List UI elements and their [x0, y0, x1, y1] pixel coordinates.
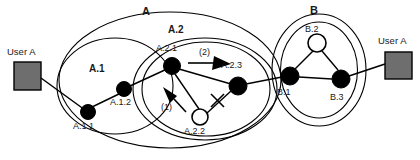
node-b-3[interactable]	[332, 70, 350, 88]
edge-a21-a23	[179, 69, 231, 84]
edge-b1-b2	[295, 51, 313, 69]
annotation-label-step-1: (1)	[161, 103, 172, 112]
node-label-a-1-1: A.1.1	[73, 122, 94, 131]
annotation-label-step-2: (2)	[199, 48, 210, 57]
edge-usera-a11	[41, 78, 85, 110]
node-label-a-1-2: A.1.2	[110, 98, 131, 107]
user-a-left-label: User A	[7, 47, 36, 57]
edge-b1-b3	[299, 77, 332, 79]
user-a-right-box[interactable]	[385, 52, 412, 79]
node-a-2-2[interactable]	[192, 109, 208, 125]
edge-b2-b3	[322, 51, 338, 70]
user-a-right-label: User A	[378, 36, 407, 46]
node-a-2-1[interactable]	[164, 58, 181, 75]
group-label-a1: A.1	[89, 64, 105, 74]
edge-a12-a21	[130, 69, 167, 86]
group-label-a: A	[142, 6, 150, 17]
node-a-2-3[interactable]	[229, 77, 247, 95]
node-label-a-2-2: A.2.2	[184, 127, 205, 136]
node-label-a-2-3: A.2.3	[221, 61, 242, 70]
group-label-b: B	[310, 5, 318, 16]
node-label-a-2-1: A.2.1	[156, 44, 177, 53]
node-a-1-1[interactable]	[81, 105, 96, 120]
node-label-b-2: B.2	[305, 25, 319, 34]
user-a-left-box[interactable]	[14, 62, 41, 90]
diagram-svg	[0, 0, 420, 160]
group-label-a2: A.2	[168, 25, 184, 35]
diagram-canvas: A A.1 A.2 B A.1.1 A.1.2 A.2.1 A.2.2 A.2.…	[0, 0, 420, 160]
node-label-b-3: B.3	[330, 93, 344, 102]
edge-b3-usera	[349, 64, 385, 76]
broken-link-x-icon	[211, 94, 224, 107]
node-a-1-2[interactable]	[117, 82, 132, 97]
node-b-1[interactable]	[281, 67, 299, 85]
node-b-2[interactable]	[308, 34, 326, 52]
node-label-b-1: B.1	[277, 88, 291, 97]
